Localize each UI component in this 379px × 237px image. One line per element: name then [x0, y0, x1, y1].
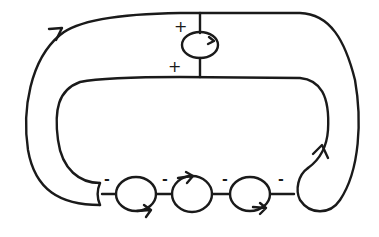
bottom-twist-circle-2	[172, 176, 212, 212]
bottom-arrow-2-icon	[178, 172, 193, 183]
top-plus-sign-upper: +	[174, 17, 187, 36]
top-plus-sign-lower: +	[168, 57, 181, 76]
outer-band-top	[26, 13, 359, 211]
knot-diagram: + + - - - -	[0, 0, 379, 237]
minus-sign-3: -	[222, 171, 228, 187]
inner-band	[57, 77, 329, 183]
left-band-cap	[98, 183, 100, 205]
bottom-twist-circle-1	[116, 177, 156, 211]
minus-sign-4: -	[278, 171, 284, 187]
minus-sign-2: -	[162, 171, 168, 187]
top-twist-arrow-icon	[208, 37, 214, 44]
minus-sign-1: -	[104, 171, 110, 187]
